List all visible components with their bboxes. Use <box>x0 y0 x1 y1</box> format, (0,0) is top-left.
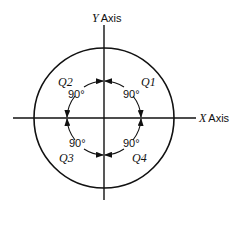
q4-arc-to-y-axis-icon <box>105 149 124 155</box>
q1-arc-to-y-axis-icon <box>105 81 124 87</box>
quadrant-diagram: YAxis XAxis Q1 Q2 Q3 Q4 90° 90° 90° 90° <box>0 0 238 226</box>
q4-angle-label: 90° <box>123 137 140 149</box>
q3-arc-to-y-axis-icon <box>84 149 103 155</box>
q1-angle-label: 90° <box>123 88 140 100</box>
q3-angle-label: 90° <box>69 137 86 149</box>
q3-label: Q3 <box>59 151 74 165</box>
q2-arc-to-y-axis-icon <box>84 81 103 87</box>
q2-label: Q2 <box>58 75 73 89</box>
q2-angle-label: 90° <box>68 88 85 100</box>
q4-label: Q4 <box>132 151 147 165</box>
y-axis-label: YAxis <box>92 11 122 25</box>
x-axis-label: XAxis <box>198 111 230 125</box>
q1-label: Q1 <box>141 75 156 89</box>
